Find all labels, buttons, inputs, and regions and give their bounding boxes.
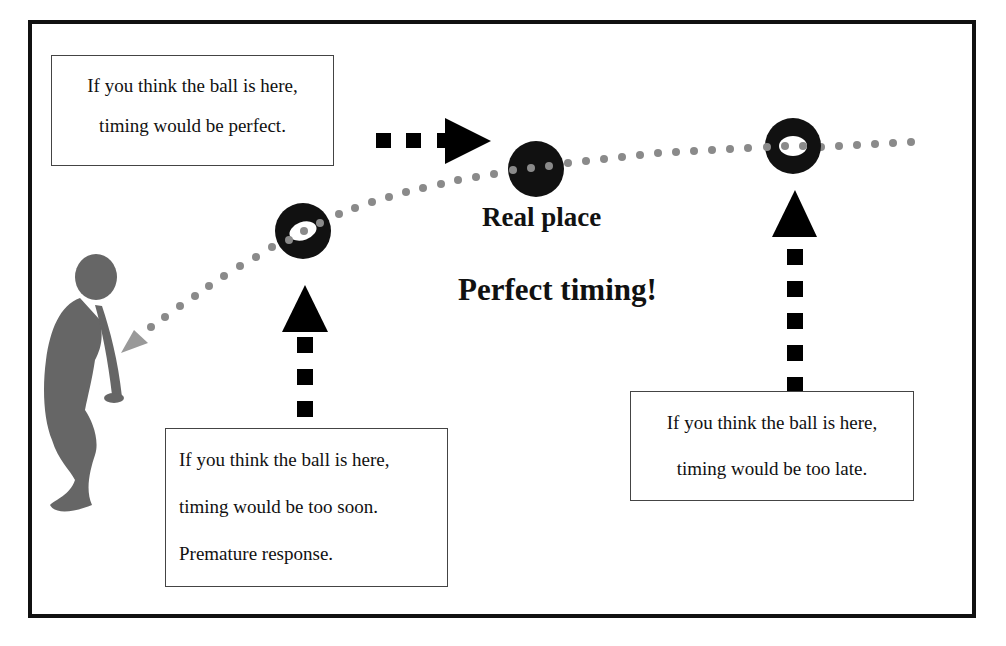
perfect-timing-heading: Perfect timing!: [458, 272, 657, 308]
callout-perfect-line2: timing would be perfect.: [52, 106, 333, 146]
arrow-right-icon: [376, 118, 491, 164]
callout-too-soon-line1: If you think the ball is here,: [179, 436, 447, 483]
ball-too-late-icon: [763, 118, 821, 174]
callout-too-soon-line3: Premature response.: [179, 530, 447, 577]
ball-real-place-icon: [508, 141, 564, 197]
callout-too-soon: If you think the ball is here, timing wo…: [165, 428, 448, 587]
trajectory-arrowhead-icon: [121, 330, 148, 353]
callout-too-late-line1: If you think the ball is here,: [631, 400, 913, 446]
callout-too-soon-line2: timing would be too soon.: [179, 483, 447, 530]
callout-too-late: If you think the ball is here, timing wo…: [630, 391, 914, 501]
arrow-up-too-late-icon: [772, 190, 817, 393]
arrow-up-too-soon-icon: [282, 285, 328, 417]
ball-too-soon-icon: [275, 203, 331, 259]
real-place-label: Real place: [482, 202, 601, 233]
callout-perfect-line1: If you think the ball is here,: [52, 66, 333, 106]
callout-too-late-line2: timing would be too late.: [631, 446, 913, 492]
person-figure-icon: [44, 254, 124, 511]
callout-perfect: If you think the ball is here, timing wo…: [51, 55, 334, 166]
